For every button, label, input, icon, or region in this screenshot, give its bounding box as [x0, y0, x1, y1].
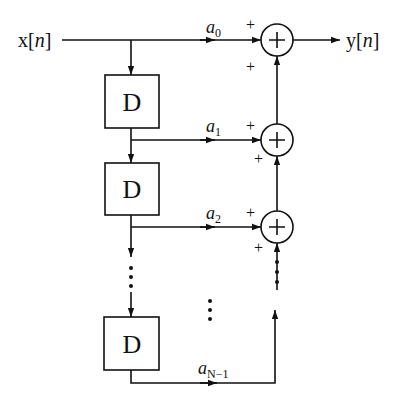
sign-a2: +: [246, 204, 255, 221]
sign-sum-1: +: [254, 150, 263, 167]
input-label: x[n]: [18, 29, 51, 51]
sign-sum-2: +: [254, 239, 263, 256]
delay-label-3: D: [123, 330, 142, 359]
sum-chain-dots: [275, 260, 279, 284]
delay-label-1: D: [123, 88, 142, 117]
sign-a1: +: [246, 117, 255, 134]
coef-a2: a2: [206, 203, 221, 226]
sign-a0: +: [246, 16, 255, 33]
delay-chain-dots: [129, 266, 133, 288]
coef-aN-1: aN−1: [198, 358, 228, 381]
sign-sum-0: +: [246, 58, 255, 75]
coef-a1: a1: [206, 116, 221, 139]
coef-dots: [208, 299, 212, 321]
delay-label-2: D: [123, 175, 142, 204]
fir-filter-diagram: x[n] y[n] D D D a0 a1 a2 aN−1 + + + + + …: [0, 0, 398, 405]
output-label: y[n]: [346, 29, 379, 52]
coef-a0: a0: [206, 17, 221, 40]
